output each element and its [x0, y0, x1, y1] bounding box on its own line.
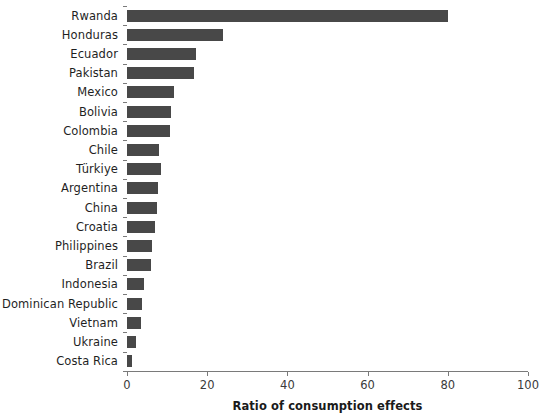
- y-axis-tick: [123, 236, 127, 237]
- bar: [127, 29, 223, 41]
- bar: [127, 278, 144, 290]
- bar-row: Costa Rica: [127, 352, 528, 371]
- bar: [127, 240, 152, 252]
- y-axis-tick: [123, 352, 127, 353]
- x-axis-tick-label: 80: [440, 378, 455, 392]
- bar-row: Ukraine: [127, 332, 528, 351]
- category-label: Rwanda: [71, 9, 118, 23]
- category-label: Honduras: [62, 28, 118, 42]
- bar: [127, 125, 170, 137]
- bar-row: Croatia: [127, 217, 528, 236]
- bar: [127, 336, 136, 348]
- bar: [127, 259, 151, 271]
- bar-row: Colombia: [127, 121, 528, 140]
- x-axis-tick: [448, 372, 449, 376]
- y-axis-tick: [123, 6, 127, 7]
- x-axis-tick-label: 40: [280, 378, 295, 392]
- bar-row: Türkiye: [127, 160, 528, 179]
- category-label: Türkiye: [76, 162, 118, 176]
- y-axis-tick: [123, 83, 127, 84]
- category-label: Colombia: [63, 124, 118, 138]
- y-axis-tick: [123, 217, 127, 218]
- bar: [127, 86, 174, 98]
- category-label: Croatia: [76, 220, 118, 234]
- y-axis-tick: [123, 25, 127, 26]
- category-label: Ukraine: [73, 335, 118, 349]
- bar: [127, 10, 448, 22]
- bar: [127, 67, 194, 79]
- category-label: Vietnam: [69, 316, 118, 330]
- y-axis-tick: [123, 160, 127, 161]
- bar: [127, 317, 141, 329]
- y-axis-tick: [123, 332, 127, 333]
- x-axis-tick: [207, 372, 208, 376]
- x-axis-tick-label: 60: [360, 378, 375, 392]
- bar-row: Mexico: [127, 83, 528, 102]
- bar-row: Dominican Republic: [127, 294, 528, 313]
- bar-row: China: [127, 198, 528, 217]
- category-label: Indonesia: [61, 277, 118, 291]
- bar-row: Ecuador: [127, 44, 528, 63]
- bar-row: Bolivia: [127, 102, 528, 121]
- x-axis-tick: [287, 372, 288, 376]
- y-axis-tick: [123, 256, 127, 257]
- x-axis-ticks: 020406080100: [127, 372, 528, 398]
- bar: [127, 182, 158, 194]
- category-label: Brazil: [85, 258, 118, 272]
- category-label: Argentina: [61, 181, 118, 195]
- category-label: Costa Rica: [56, 354, 118, 368]
- bar: [127, 355, 132, 367]
- y-axis-tick: [123, 294, 127, 295]
- bar-row: Chile: [127, 140, 528, 159]
- bar-row: Philippines: [127, 236, 528, 255]
- x-axis-tick: [368, 372, 369, 376]
- y-axis-tick: [123, 275, 127, 276]
- y-axis-tick: [123, 313, 127, 314]
- category-label: Ecuador: [70, 47, 118, 61]
- category-label: Philippines: [55, 239, 118, 253]
- bar-row: Argentina: [127, 179, 528, 198]
- x-axis-tick-label: 100: [517, 378, 539, 392]
- bar: [127, 48, 196, 60]
- x-axis-tick-label: 20: [200, 378, 215, 392]
- x-axis-tick: [127, 372, 128, 376]
- category-label: Dominican Republic: [2, 297, 118, 311]
- x-axis-tick: [528, 372, 529, 376]
- bar-row: Indonesia: [127, 275, 528, 294]
- bar: [127, 144, 159, 156]
- y-axis-tick: [123, 121, 127, 122]
- bar-row: Brazil: [127, 256, 528, 275]
- bar-row: Pakistan: [127, 64, 528, 83]
- bar: [127, 106, 171, 118]
- bar: [127, 163, 161, 175]
- bar-chart: RwandaHondurasEcuadorPakistanMexicoBoliv…: [0, 0, 548, 420]
- x-axis-tick-label: 0: [123, 378, 130, 392]
- y-axis-tick: [123, 140, 127, 141]
- y-axis-tick: [123, 44, 127, 45]
- category-label: China: [85, 201, 118, 215]
- bar: [127, 298, 142, 310]
- plot-area: RwandaHondurasEcuadorPakistanMexicoBoliv…: [127, 6, 528, 371]
- y-axis-tick: [123, 64, 127, 65]
- category-label: Mexico: [77, 85, 118, 99]
- bar-row: Vietnam: [127, 313, 528, 332]
- bar: [127, 202, 157, 214]
- bar: [127, 221, 155, 233]
- bar-row: Honduras: [127, 25, 528, 44]
- bar-row: Rwanda: [127, 6, 528, 25]
- category-label: Bolivia: [79, 105, 118, 119]
- y-axis-tick: [123, 198, 127, 199]
- bar-rows: RwandaHondurasEcuadorPakistanMexicoBoliv…: [127, 6, 528, 371]
- x-axis-title: Ratio of consumption effects: [127, 399, 528, 413]
- category-label: Chile: [89, 143, 118, 157]
- category-label: Pakistan: [69, 66, 118, 80]
- y-axis-tick: [123, 102, 127, 103]
- y-axis-tick: [123, 179, 127, 180]
